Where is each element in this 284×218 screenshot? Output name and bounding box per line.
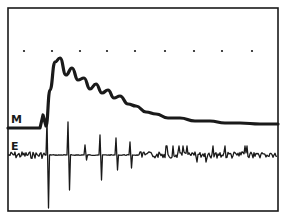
reference-dot (106, 50, 108, 52)
m-trace-label: M (11, 114, 22, 125)
e-trace-label: E (11, 141, 19, 152)
trace-plot (0, 0, 284, 218)
e-trace-line (8, 120, 277, 208)
oscilloscope-figure: M E (0, 0, 284, 218)
reference-dot (51, 50, 53, 52)
reference-dot (23, 50, 25, 52)
reference-dot (221, 50, 223, 52)
reference-dot (79, 50, 81, 52)
reference-dot (164, 50, 166, 52)
reference-dot (134, 50, 136, 52)
reference-dots (23, 50, 253, 52)
m-trace-line (8, 58, 278, 128)
reference-dot (251, 50, 253, 52)
reference-dot (193, 50, 195, 52)
